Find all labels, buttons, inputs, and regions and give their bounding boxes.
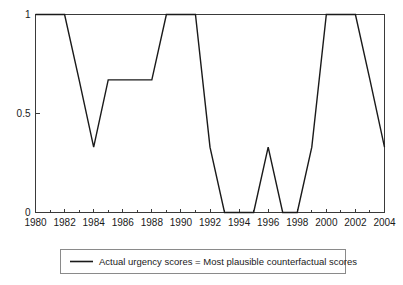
y-tick-label: 1 — [25, 9, 31, 20]
data-series-line — [36, 15, 385, 213]
x-tick-label: 1990 — [170, 217, 193, 228]
x-axis-ticks: 1980198219841986198819901992199419961998… — [24, 209, 396, 228]
x-tick-label: 1982 — [53, 217, 76, 228]
x-tick-label: 1980 — [24, 217, 47, 228]
x-tick-label: 1996 — [257, 217, 280, 228]
y-axis-ticks: 00.51 — [17, 9, 40, 218]
x-tick-label: 2002 — [344, 217, 367, 228]
x-tick-label: 1984 — [83, 217, 106, 228]
chart-legend: Actual urgency scores = Most plausible c… — [61, 250, 358, 274]
x-tick-label: 1988 — [141, 217, 164, 228]
x-tick-label: 2000 — [315, 217, 338, 228]
x-tick-label: 1986 — [112, 217, 135, 228]
x-tick-label: 1994 — [228, 217, 251, 228]
chart-figure: 00.51 1980198219841986198819901992199419… — [0, 0, 403, 285]
y-tick-label: 0.5 — [17, 108, 31, 119]
plot-frame — [36, 15, 385, 213]
x-tick-label: 2004 — [373, 217, 396, 228]
legend-label: Actual urgency scores = Most plausible c… — [99, 256, 357, 267]
line-chart: 00.51 1980198219841986198819901992199419… — [0, 0, 403, 285]
x-tick-label: 1992 — [199, 217, 222, 228]
x-tick-label: 1998 — [286, 217, 309, 228]
